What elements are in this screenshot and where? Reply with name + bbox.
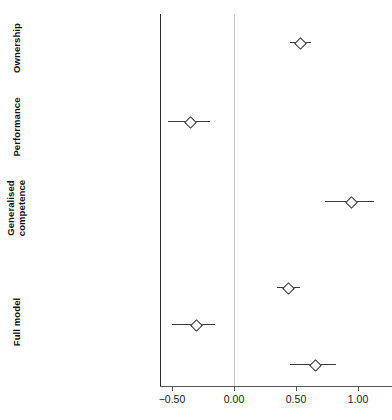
x-axis-tick xyxy=(234,386,235,391)
x-axis-tick-label: 0.50 xyxy=(286,393,306,405)
row-label-axis: Best party on MIPPolicy conditionsParty … xyxy=(0,0,158,420)
estimate-row xyxy=(0,358,392,372)
point-estimate-marker xyxy=(282,282,295,295)
point-estimate-marker xyxy=(345,196,358,209)
x-axis-tick-label: −0.50 xyxy=(159,393,186,405)
x-axis-tick xyxy=(358,386,359,391)
point-estimate-marker xyxy=(184,116,197,129)
x-axis-tick-label: 0.00 xyxy=(224,393,244,405)
x-axis-tick xyxy=(172,386,173,391)
estimate-row xyxy=(0,281,392,295)
point-estimate-marker xyxy=(309,359,322,372)
point-estimate-marker xyxy=(190,319,203,332)
x-axis-tick xyxy=(296,386,297,391)
x-axis-tick-label: 1.00 xyxy=(348,393,368,405)
estimate-row xyxy=(0,36,392,50)
point-estimate-marker xyxy=(294,37,307,50)
forest-plot: OwnershipPerformanceGeneralised competen… xyxy=(0,0,392,420)
estimate-row xyxy=(0,195,392,209)
estimate-row xyxy=(0,318,392,332)
estimate-row xyxy=(0,115,392,129)
